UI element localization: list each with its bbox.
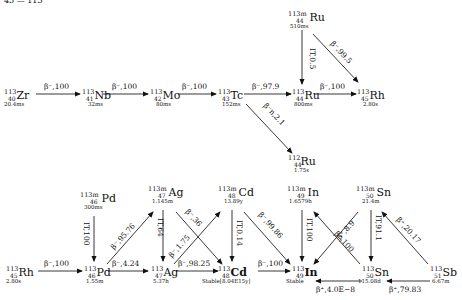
nuclide-zr113: 113Zr 4020.4ms (4, 86, 29, 102)
label-cd-in: β⁻,100 (258, 259, 283, 268)
nuclide-sn113m: 113mSn 5021.4m (356, 183, 391, 199)
label-cd113m-it: IT,0.14 (235, 220, 244, 246)
nuclide-in113m: 113mIn 491.6579h (287, 183, 319, 199)
nuclide-in113: 113In 49Stable (292, 263, 318, 279)
label-ag-cd: β⁻,98.25 (178, 259, 210, 268)
label-ru113m-beta: β⁻,99.5 (329, 39, 354, 65)
label-sn-in: β⁺,4.0E−8 (316, 285, 355, 294)
nuclide-pd113: 113Pd 461.55m (84, 263, 111, 279)
decay-chain-diagram: 43 — 113 (0, 0, 462, 300)
nuclide-rh113: 113Rh 452.80s (6, 263, 34, 279)
label-tc-ru: β⁻,97.9 (252, 82, 280, 91)
nuclide-ru112: 112Ru 441.75s (288, 152, 316, 168)
label-pd-ag113m: β⁻,95.76 (109, 221, 137, 251)
nuclide-sn113: 113Sn 50115.08d (362, 263, 389, 279)
nuclide-ag113: 113Ag 475.37h (151, 263, 178, 279)
label-pd-ag: β⁻,4.24 (112, 259, 140, 268)
nuclide-tc113: 113Tc 43152ms (218, 86, 243, 102)
label-ru113m-it: IT,0.5 (308, 48, 317, 69)
nuclide-sb113: 113Sb 516.67m (430, 263, 457, 279)
label-mo-tc: β⁻,100 (182, 82, 207, 91)
nuclide-rh113-top: 113Rh 452.80s (357, 86, 385, 102)
arrows-layer: β⁻,100 β⁻,100 β⁻,100 β⁻,97.9 β⁻,100 IT,0… (0, 0, 462, 300)
label-sn113m-it: IT,91.1 (374, 215, 383, 241)
nuclide-ag113m: 113mAg 471.145m (148, 183, 184, 199)
nuclide-ru113: 113Ru 44800ms (292, 86, 320, 102)
nuclide-cd113m: 113mCd 4813.89y (218, 183, 254, 199)
nuclide-mo113: 113Mo 4280ms (150, 86, 180, 102)
label-sb-sn: β⁺,79.83 (389, 285, 421, 294)
nuclide-pd113m: 113mPd 46300ms (80, 189, 116, 205)
label-nb-mo: β⁻,100 (112, 82, 137, 91)
arrow-pd-ag113m (107, 212, 153, 264)
label-tc-ru112: β⁻n,2.1 (262, 101, 287, 127)
label-rh-pd: β⁻,100 (44, 259, 69, 268)
label-cd113m-in: β⁻,99.86 (257, 210, 285, 240)
label-ag113m-it: IT,64 (156, 218, 165, 237)
label-ag-cd113m: β⁻,1.75 (167, 233, 192, 260)
label-in113m-it: IT,100 (305, 218, 314, 242)
label-zr-nb: β⁻,100 (44, 82, 69, 91)
label-pd113m-it: IT,100 (82, 222, 91, 246)
label-ru-rh: β⁻,100 (320, 82, 345, 91)
nuclide-ru113m: 113mRu 44510ms (288, 8, 325, 24)
nuclide-nb113: 113Nb 4132ms (82, 86, 111, 102)
nuclide-cd113: 113Cd 48Stable[8.04E15y] (218, 263, 247, 279)
label-ag113m-cd: β⁻,36 (184, 207, 204, 228)
